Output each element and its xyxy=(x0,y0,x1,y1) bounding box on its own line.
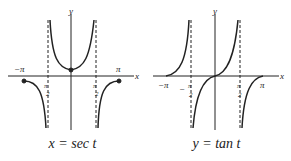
y-label-2: y xyxy=(212,6,217,16)
svg-text:π: π xyxy=(188,82,192,90)
svg-text:2: 2 xyxy=(189,91,193,99)
tick-neg-pi-2: −π xyxy=(158,80,169,90)
y-label-1: y xyxy=(68,6,73,16)
x-label-2: x xyxy=(279,71,284,81)
x-label-1: x xyxy=(134,71,139,81)
tick-pi-1: π xyxy=(116,64,121,74)
tick-pi-2: π xyxy=(260,80,265,90)
tick-half-pi-2: π xyxy=(237,82,241,90)
tick-neg-pi-1: −π xyxy=(14,64,25,74)
tan-graph xyxy=(153,14,279,130)
svg-text:2: 2 xyxy=(46,90,50,98)
caption-tan: y = tan t xyxy=(144,136,289,152)
tick-half-pi-1: π xyxy=(93,82,97,90)
svg-text:2: 2 xyxy=(238,91,242,99)
tick-neg-half-pi-2: − xyxy=(179,84,185,94)
tick-neg-half-pi-1: π xyxy=(44,82,48,90)
caption-sec: x = sec t xyxy=(0,136,145,152)
svg-text:2: 2 xyxy=(95,90,99,98)
